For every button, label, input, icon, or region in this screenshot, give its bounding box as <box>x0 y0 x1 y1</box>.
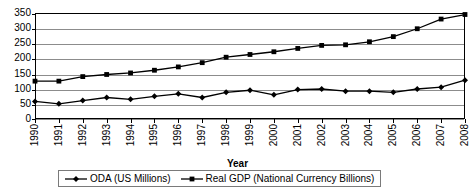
x-axis-tick-label: 1995 <box>149 124 159 146</box>
x-axis-tick-label: 1999 <box>245 124 255 146</box>
data-point-square <box>80 74 85 79</box>
x-axis-tick-label: 2006 <box>412 124 422 146</box>
y-axis-labels: 050100150200250300350 <box>0 13 31 119</box>
x-axis-tick <box>107 119 108 123</box>
x-axis-tick <box>226 119 227 123</box>
x-axis-tick-label: 2004 <box>364 124 374 146</box>
x-axis-tick-label: 1996 <box>173 124 183 146</box>
x-axis-tick-label: 1998 <box>221 124 231 146</box>
data-point-square <box>56 79 61 84</box>
x-axis-tick-label: 1990 <box>30 124 40 146</box>
x-axis-tick-label: 1991 <box>54 124 64 146</box>
data-point-square <box>224 55 229 60</box>
data-point-square <box>391 34 396 39</box>
data-point-diamond <box>223 89 229 95</box>
x-axis-tick <box>298 119 299 123</box>
x-axis-tick <box>35 119 36 123</box>
x-axis-tick <box>274 119 275 123</box>
data-point-square <box>176 65 181 70</box>
data-point-square <box>104 72 109 77</box>
x-axis-tick <box>322 119 323 123</box>
data-point-diamond <box>128 96 134 102</box>
data-point-diamond <box>73 176 79 182</box>
x-axis-tick <box>250 119 251 123</box>
data-point-square <box>271 49 276 54</box>
legend-square-icon <box>181 174 203 184</box>
data-point-square <box>415 26 420 31</box>
x-axis-tick <box>178 119 179 123</box>
data-point-diamond <box>80 98 86 104</box>
data-point-diamond <box>343 88 349 94</box>
data-point-square <box>343 42 348 47</box>
data-point-diamond <box>462 77 468 83</box>
data-point-square <box>189 176 194 181</box>
x-axis-labels: 1990199119921993199419951996199719981999… <box>35 124 465 160</box>
legend-label: ODA (US Millions) <box>90 174 171 184</box>
series-layer <box>35 13 465 119</box>
data-point-diamond <box>247 87 253 93</box>
data-point-diamond <box>151 93 157 99</box>
x-axis-tick <box>131 119 132 123</box>
data-point-square <box>439 17 444 22</box>
x-axis-tick <box>346 119 347 123</box>
x-axis-tick-label: 2001 <box>293 124 303 146</box>
y-axis-tick-label: 50 <box>20 99 31 109</box>
data-point-square <box>152 68 157 73</box>
x-axis-tick-label: 2002 <box>317 124 327 146</box>
y-axis-tick-label: 350 <box>14 8 31 18</box>
data-point-diamond <box>366 88 372 94</box>
legend-diamond-icon <box>65 174 87 184</box>
x-axis-tick <box>441 119 442 123</box>
y-axis-tick-label: 300 <box>14 23 31 33</box>
x-axis-tick-label: 1992 <box>78 124 88 146</box>
x-axis-tick <box>417 119 418 123</box>
data-point-square <box>295 46 300 51</box>
x-axis-tick-label: 2005 <box>388 124 398 146</box>
data-point-diamond <box>32 98 38 104</box>
x-axis-tick-label: 2000 <box>269 124 279 146</box>
data-point-square <box>33 79 38 84</box>
data-point-diamond <box>319 86 325 92</box>
x-axis-title: Year <box>0 158 475 169</box>
data-point-diamond <box>199 94 205 100</box>
x-axis-tick-label: 1994 <box>126 124 136 146</box>
data-point-diamond <box>104 94 110 100</box>
data-point-diamond <box>414 86 420 92</box>
x-axis-tick-label: 2007 <box>436 124 446 146</box>
x-axis-tick <box>83 119 84 123</box>
y-axis-tick-label: 0 <box>25 114 31 124</box>
x-axis-tick-label: 1993 <box>102 124 112 146</box>
data-point-diamond <box>295 87 301 93</box>
data-point-square <box>463 12 468 17</box>
data-point-square <box>200 60 205 65</box>
data-point-square <box>128 71 133 76</box>
data-point-diamond <box>56 101 62 107</box>
x-axis-tick <box>202 119 203 123</box>
legend-item[interactable]: Real GDP (National Currency Billions) <box>181 174 375 184</box>
data-point-diamond <box>390 89 396 95</box>
x-axis-tick <box>154 119 155 123</box>
x-axis-tick-label: 2008 <box>460 124 470 146</box>
legend-label: Real GDP (National Currency Billions) <box>206 174 375 184</box>
series-1 <box>32 77 468 107</box>
x-axis-tick <box>393 119 394 123</box>
line-chart: 050100150200250300350 199019911992199319… <box>0 0 475 191</box>
data-point-square <box>319 43 324 48</box>
y-axis-tick-label: 200 <box>14 53 31 63</box>
x-axis-tick-label: 2003 <box>341 124 351 146</box>
x-axis-tick-label: 1997 <box>197 124 207 146</box>
data-point-diamond <box>438 84 444 90</box>
data-point-diamond <box>271 92 277 98</box>
data-point-square <box>367 39 372 44</box>
data-point-square <box>248 52 253 57</box>
x-axis-tick <box>59 119 60 123</box>
series-2 <box>33 12 468 83</box>
data-point-diamond <box>175 91 181 97</box>
x-axis-tick <box>369 119 370 123</box>
x-axis-tick <box>465 119 466 123</box>
y-axis-tick-label: 100 <box>14 84 31 94</box>
chart-legend: ODA (US Millions)Real GDP (National Curr… <box>58 170 381 187</box>
y-axis-tick-label: 250 <box>14 38 31 48</box>
legend-item[interactable]: ODA (US Millions) <box>65 174 171 184</box>
series-line <box>35 15 465 82</box>
